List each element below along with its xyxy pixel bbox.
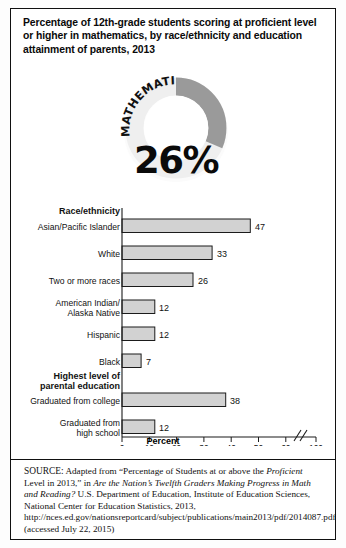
bar-label-graduated-from-college: Graduated from college xyxy=(30,396,120,406)
bar-graduated-from-college xyxy=(122,393,226,407)
bar-label-hispanic: Hispanic xyxy=(87,330,121,340)
bar-value-graduated-from-college: 38 xyxy=(230,396,240,406)
bar-hispanic xyxy=(122,327,155,341)
bar-label-two-or-more-races: Two or more races xyxy=(49,276,120,286)
donut-value-label: 26% xyxy=(96,142,256,180)
infographic-page: Percentage of 12th-grade students scorin… xyxy=(0,0,346,548)
bar-value-asian-pacific-islander: 47 xyxy=(255,222,265,232)
source-text-b: Level in 2013,” in xyxy=(24,478,93,488)
source-italic-proficient: Proficient xyxy=(266,466,302,476)
mathematics-donut: MATHEMATICS 26% xyxy=(96,62,256,190)
group-header-parental-education: Highest level of xyxy=(53,371,121,381)
bar-value-white: 33 xyxy=(217,249,227,259)
bar-american-indian-alaska-native xyxy=(122,300,155,314)
bar-chart-svg: Race/ethnicity Asian/Pacific Islander 47… xyxy=(16,196,330,446)
bar-value-hispanic: 12 xyxy=(159,330,169,340)
source-divider xyxy=(11,459,335,460)
bar-label-white: White xyxy=(98,249,120,259)
bar-value-american-indian-alaska-native: 12 xyxy=(159,303,169,313)
bar-label-american-indian-alaska-native-line2: Alaska Native xyxy=(67,308,120,318)
bar-asian-pacific-islander xyxy=(122,219,250,233)
bar-label-graduated-from-high-school: Graduated from xyxy=(60,418,120,428)
x-axis-title: Percent xyxy=(0,436,326,446)
bar-label-american-indian-alaska-native: American Indian/ xyxy=(56,298,121,308)
bar-chart: Race/ethnicity Asian/Pacific Islander 47… xyxy=(16,196,330,446)
bar-value-black: 7 xyxy=(146,357,151,367)
bar-label-asian-pacific-islander: Asian/Pacific Islander xyxy=(38,222,120,232)
bar-black xyxy=(122,354,141,368)
bar-graduated-from-high-school xyxy=(122,420,155,434)
source-text-a: Adapted from “Percentage of Students at … xyxy=(64,466,267,476)
bar-value-two-or-more-races: 26 xyxy=(198,276,208,286)
bar-value-graduated-from-high-school: 12 xyxy=(159,423,169,433)
bar-white xyxy=(122,246,212,260)
bar-label-black: Black xyxy=(99,357,121,367)
page-title: Percentage of 12th-grade students scorin… xyxy=(23,16,323,56)
bar-two-or-more-races xyxy=(122,273,193,287)
group-header-race: Race/ethnicity xyxy=(59,206,120,216)
group-header-parental-education-line2: parental education xyxy=(40,381,120,391)
source-label: SOURCE: xyxy=(24,466,64,476)
source-note: SOURCE: Adapted from “Percentage of Stud… xyxy=(24,466,314,536)
